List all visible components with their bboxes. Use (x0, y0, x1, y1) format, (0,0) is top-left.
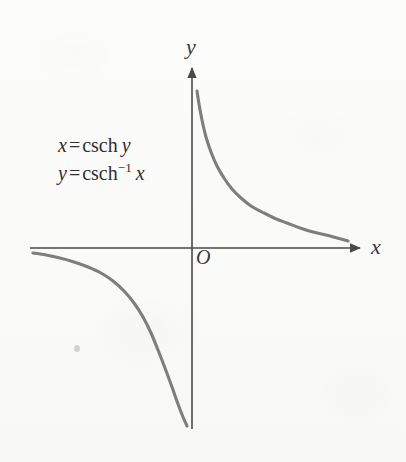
equation-line-2: y=csch−1x (58, 159, 145, 187)
scan-speck-artifact (74, 345, 80, 352)
equation-1-equals: = (67, 134, 82, 156)
equation-2-equals: = (67, 162, 82, 184)
equation-1-argument: y (122, 134, 131, 156)
curve-positive-branch (197, 91, 348, 241)
curve-negative-branch (33, 253, 187, 426)
equation-2-lhs: y (58, 162, 67, 184)
graph-canvas (0, 0, 406, 462)
equation-2-function: csch (82, 162, 118, 184)
x-axis-label: x (371, 234, 381, 260)
equation-1-lhs: x (58, 134, 67, 156)
equation-annotations: x=cschy y=csch−1x (58, 131, 145, 188)
origin-label: O (196, 246, 210, 269)
axes-group (30, 68, 360, 429)
equation-line-1: x=cschy (58, 131, 145, 159)
y-axis-label: y (186, 34, 196, 60)
equation-2-exponent: −1 (118, 161, 132, 176)
math-figure: x=cschy y=csch−1x y x O (0, 0, 406, 462)
equation-2-argument: x (136, 162, 145, 184)
equation-1-function: csch (82, 134, 118, 156)
